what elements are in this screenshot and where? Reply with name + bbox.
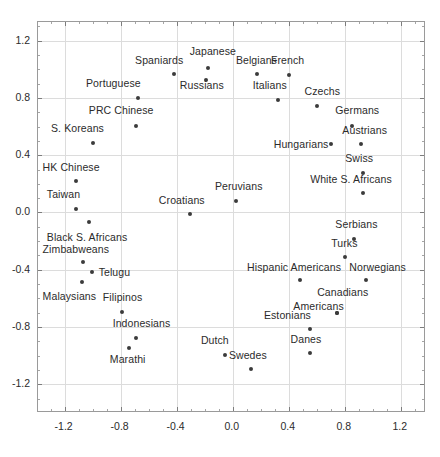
data-point-label: Filipinos [103,292,142,303]
x-major-tick [345,22,346,26]
data-point-label: Zimbabweans [43,244,109,255]
y-minor-tick [38,127,40,128]
y-axis-tick-label: 0.0 [0,205,30,217]
x-minor-tick [303,22,304,24]
data-point[interactable] [87,220,91,224]
y-major-tick [420,155,424,156]
x-minor-tick [149,22,150,24]
data-point[interactable] [74,207,78,211]
y-minor-tick [422,241,424,242]
x-gridline [65,22,66,411]
data-point[interactable] [81,260,85,264]
data-point-label: HK Chinese [43,162,100,173]
x-major-tick [345,407,346,411]
y-gridline [38,98,424,99]
data-point-label: Germans [335,105,379,116]
data-point-label: Swedes [229,350,267,361]
y-minor-tick [38,284,40,285]
x-minor-tick [303,409,304,411]
y-axis-tick-label: -0.4 [0,263,30,275]
data-point-label: Hispanic Americans [247,262,341,273]
y-gridline [38,327,424,328]
scatter-chart: -1.2-0.8-0.40.00.40.81.21.20.80.40.0-0.4… [0,0,440,457]
x-major-tick [121,22,122,26]
data-point[interactable] [90,270,94,274]
y-axis-tick-label: 0.8 [0,91,30,103]
y-minor-tick [38,356,40,357]
y-minor-tick [38,241,40,242]
y-minor-tick [422,84,424,85]
x-minor-tick [359,22,360,24]
y-major-tick [38,155,42,156]
x-minor-tick [79,22,80,24]
data-point-label: Japanese [190,46,236,57]
data-point-label: Canadians [317,287,368,298]
y-minor-tick [422,284,424,285]
y-minor-tick [422,184,424,185]
x-minor-tick [415,409,416,411]
data-point-label: Malaysians [43,291,97,302]
data-point[interactable] [315,104,319,108]
x-minor-tick [247,409,248,411]
data-point-label: Danes [291,334,322,345]
y-minor-tick [422,313,424,314]
y-major-tick [420,384,424,385]
x-minor-tick [149,409,150,411]
x-gridline [345,22,346,411]
data-point-label: Turks [331,238,357,249]
data-point-label: Czechs [305,86,341,97]
y-minor-tick [38,184,40,185]
y-minor-tick [422,141,424,142]
y-minor-tick [38,112,40,113]
y-axis-tick-label: -0.8 [0,320,30,332]
y-minor-tick [422,69,424,70]
y-major-tick [38,212,42,213]
x-minor-tick [107,22,108,24]
data-point-label: Dutch [201,335,229,346]
y-minor-tick [422,170,424,171]
data-point-label: Italians [253,80,287,91]
data-point[interactable] [80,280,84,284]
data-point-label: Portuguese [86,78,141,89]
x-minor-tick [317,22,318,24]
y-major-tick [420,98,424,99]
y-gridline [38,41,424,42]
x-axis-tick-label: 1.2 [392,420,407,432]
data-point-label: Hungarians [274,139,329,150]
x-major-tick [289,22,290,26]
data-point-label: Spaniards [135,55,183,66]
data-point[interactable] [223,353,227,357]
x-minor-tick [275,22,276,24]
x-axis-tick-label: 0.0 [224,420,239,432]
y-gridline [38,384,424,385]
y-minor-tick [38,55,40,56]
x-minor-tick [331,22,332,24]
y-minor-tick [422,298,424,299]
x-minor-tick [373,409,374,411]
x-major-tick [401,22,402,26]
y-minor-tick [38,69,40,70]
y-major-tick [38,327,42,328]
data-point-label: Estonians [264,310,311,321]
y-minor-tick [38,341,40,342]
x-minor-tick [387,409,388,411]
data-point-label: Austrians [342,125,387,136]
data-point[interactable] [359,142,363,146]
y-minor-tick [38,170,40,171]
data-point[interactable] [276,98,280,102]
data-point[interactable] [91,141,95,145]
y-axis-tick-label: 0.4 [0,148,30,160]
x-gridline [177,22,178,411]
y-minor-tick [38,399,40,400]
data-point-label: Serbians [335,219,377,230]
x-major-tick [177,407,178,411]
y-minor-tick [422,127,424,128]
data-point[interactable] [255,72,259,76]
data-point-label: Swiss [345,153,373,164]
y-major-tick [420,41,424,42]
data-point-label: Black S. Africans [47,232,127,243]
y-minor-tick [422,227,424,228]
data-point-label: Croatians [159,195,205,206]
x-major-tick [177,22,178,26]
y-minor-tick [422,26,424,27]
